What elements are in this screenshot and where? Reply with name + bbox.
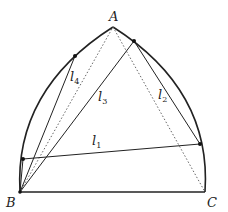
line-l2 [134,41,200,144]
label-l4: l4 [70,69,79,86]
label-l3: l3 [98,89,107,106]
line-l4 [20,56,75,192]
line-l3 [20,41,134,192]
line-l1 [23,144,200,159]
label-c: C [207,195,217,210]
label-l2: l2 [158,87,167,104]
point-right-top [132,39,136,43]
label-l1: l1 [92,133,101,150]
label-b: B [5,195,16,210]
point-right-low [198,142,202,146]
point-left-top [73,54,77,58]
label-a: A [108,9,118,24]
point-left-low [21,157,25,161]
reuleaux-diagram: A B C l1 l2 l3 l4 [0,0,228,212]
dotted-ab [20,27,113,192]
point-b [18,190,22,194]
